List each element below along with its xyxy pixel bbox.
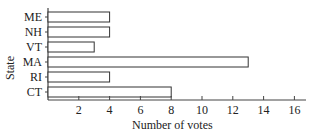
y-tick-label: MA xyxy=(23,55,43,69)
y-tick-label: VT xyxy=(26,40,43,54)
x-tick-label: 8 xyxy=(168,103,174,117)
x-tick-label: 2 xyxy=(76,103,82,117)
x-tick-label: 4 xyxy=(107,103,113,117)
x-tick-label: 12 xyxy=(227,103,239,117)
bar-me xyxy=(48,12,110,22)
y-tick-label: RI xyxy=(30,70,42,84)
bar-chart: MENHVTMARICT246810121416 State Number of… xyxy=(0,0,318,138)
x-tick-label: 10 xyxy=(196,103,208,117)
bar-ma xyxy=(48,57,248,67)
x-axis-label: Number of votes xyxy=(132,118,213,133)
bar-ct xyxy=(48,87,171,97)
bar-nh xyxy=(48,27,110,37)
y-tick-label: ME xyxy=(24,10,42,24)
x-tick-label: 6 xyxy=(137,103,143,117)
x-tick-label: 16 xyxy=(288,103,300,117)
bar-ri xyxy=(48,72,110,82)
y-tick-label: CT xyxy=(27,85,43,99)
y-tick-label: NH xyxy=(25,25,43,39)
y-axis-label: State xyxy=(3,56,18,80)
bar-vt xyxy=(48,42,94,52)
x-tick-label: 14 xyxy=(258,103,270,117)
